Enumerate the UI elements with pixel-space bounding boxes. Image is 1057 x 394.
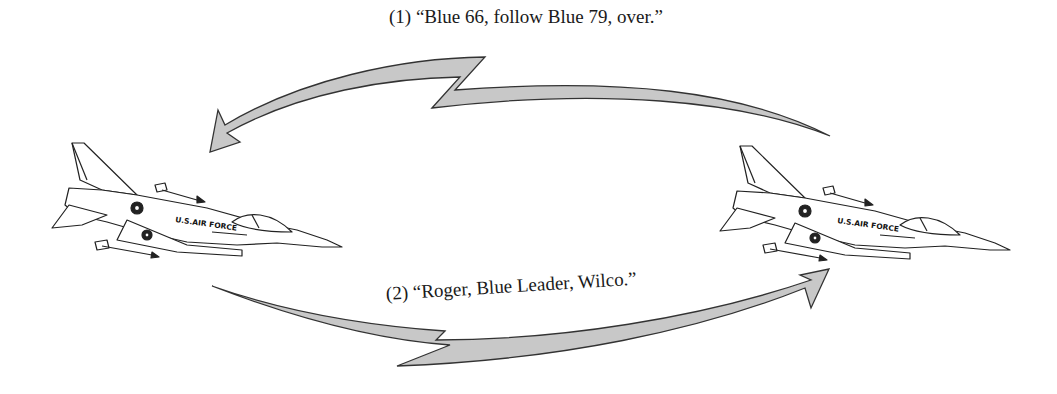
jet-left: U.S.AIR FORCE bbox=[52, 143, 342, 258]
fighter-jet-icon bbox=[720, 146, 1010, 261]
jet-right: U.S.AIR FORCE bbox=[720, 146, 1010, 261]
message-label-1: (1) “Blue 66, follow Blue 79, over.” bbox=[389, 6, 663, 28]
message-arrow-1 bbox=[210, 57, 830, 152]
diagram-canvas: U.S.AIR FORCE U.S.AIR FORCE bbox=[0, 0, 1057, 394]
fighter-jet-icon bbox=[52, 143, 342, 258]
